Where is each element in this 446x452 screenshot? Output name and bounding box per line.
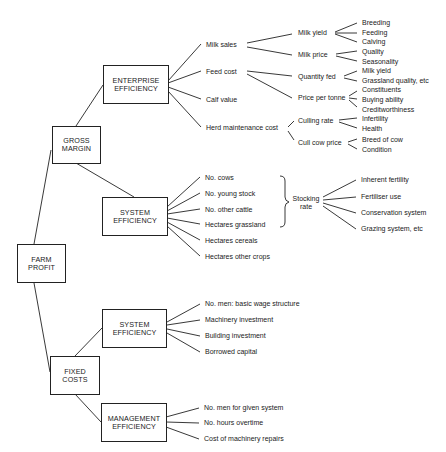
label-feed-cost: Feed cost [206, 68, 237, 76]
label-cost-machinery-repairs: Cost of machinery repairs [204, 435, 284, 443]
gross-system-efficiency-box: SYSTEM EFFICIENCY [102, 197, 168, 236]
label-quantity-fed: Quantity fed [298, 73, 336, 81]
label-culling-rate: Culling rate [298, 117, 333, 125]
label-calf-value: Calf value [206, 96, 237, 104]
label-building-investment: Building investment [205, 332, 266, 340]
farm-profit-box: FARM PROFIT [17, 244, 66, 283]
management-efficiency-box: MANAGEMENT EFFICIENCY [101, 403, 167, 442]
label-no-hours-overtime: No. hours overtime [204, 419, 263, 427]
gross-margin-line2: MARGIN [62, 145, 91, 153]
label-no-young-stock: No. young stock [205, 190, 255, 198]
label-no-other-cattle: No. other cattle [205, 206, 252, 214]
label-quality: Quality [362, 48, 384, 56]
label-borrowed-capital: Borrowed capital [205, 348, 257, 356]
label-conservation-system: Conservation system [361, 209, 426, 217]
label-feeding: Feeding [362, 29, 387, 37]
label-no-cows: No. cows [205, 174, 234, 182]
label-hectares-other-crops: Hectares other crops [205, 253, 270, 261]
fixed-system-efficiency-line2: EFFICIENCY [113, 329, 157, 337]
label-breeding: Breeding [362, 19, 390, 27]
label-fertiliser-use: Fertiliser use [361, 193, 401, 201]
label-calving: Calving [362, 38, 385, 46]
label-infertility: Infertility [362, 115, 388, 123]
label-herd-maintenance-cost: Herd maintenance cost [206, 124, 278, 132]
farm-profit-line2: PROFIT [28, 264, 55, 272]
label-no-men-given-system: No. men for given system [204, 404, 283, 412]
label-creditworthiness: Creditworthiness [362, 106, 414, 114]
fixed-costs-box: FIXED COSTS [50, 356, 100, 395]
label-no-men-basic-wage: No. men: basic wage structure [205, 300, 300, 308]
label-hectares-grassland: Hectares grassland [205, 221, 265, 229]
label-breed-of-cow: Breed of cow [362, 136, 403, 144]
label-qf-milk-yield: Milk yield [362, 67, 391, 75]
label-constituents: Constituents [362, 86, 401, 94]
label-milk-yield: Milk yield [298, 29, 327, 37]
enterprise-efficiency-line2: EFFICIENCY [114, 85, 158, 93]
fixed-costs-line2: COSTS [62, 376, 87, 384]
label-seasonality: Seasonality [362, 58, 398, 66]
label-machinery-investment: Machinery investment [205, 316, 273, 324]
gross-margin-box: GROSS MARGIN [52, 126, 101, 164]
label-buying-ability: Buying ability [362, 96, 403, 104]
label-grassland-quality: Grassland quality, etc [362, 77, 429, 85]
management-efficiency-line2: EFFICIENCY [112, 423, 156, 431]
label-grazing-system: Grazing system, etc [361, 225, 423, 233]
label-price-per-tonne: Price per tonne [298, 94, 345, 102]
label-stocking-rate-2: rate [291, 203, 321, 211]
label-health: Health [362, 125, 382, 133]
enterprise-efficiency-box: ENTERPRISE EFFICIENCY [103, 65, 169, 104]
label-stocking-rate-1: Stocking [291, 195, 321, 203]
label-milk-price: Milk price [298, 51, 328, 59]
label-milk-sales: Milk sales [206, 41, 237, 49]
label-condition: Condition [362, 146, 392, 154]
gross-system-efficiency-line2: EFFICIENCY [113, 217, 157, 225]
label-hectares-cereals: Hectares cereals [205, 237, 258, 245]
label-cull-cow-price: Cull cow price [298, 139, 342, 147]
fixed-system-efficiency-box: SYSTEM EFFICIENCY [102, 309, 167, 348]
label-inherent-fertility: Inherent fertility [361, 176, 409, 184]
